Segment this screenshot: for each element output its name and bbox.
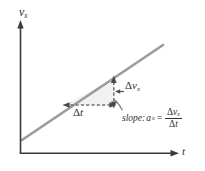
delta-t-left-arrowhead <box>63 102 70 108</box>
slope-fraction: Δvx Δt <box>165 108 182 130</box>
slope-fraction-numerator: Δvx <box>165 108 182 118</box>
delta-v-pointer-arrowhead <box>115 89 120 93</box>
delta-v-label: Δvx <box>125 80 140 92</box>
numerator-subscript: x <box>177 111 180 117</box>
delta-v-subscript: x <box>137 85 140 92</box>
x-axis-label-symbol: t <box>182 145 185 157</box>
slope-fraction-denominator: Δt <box>167 119 180 129</box>
velocity-time-graph-figure: vx t Δt Δvx slope: ax = Δvx Δt <box>0 0 205 171</box>
y-axis-label-subscript: x <box>24 11 27 20</box>
x-axis-label: t <box>182 146 185 157</box>
y-axis-arrowhead <box>17 20 23 29</box>
delta-t-symbol: t <box>80 106 83 118</box>
slope-word-label: slope: <box>122 114 145 124</box>
figure-canvas <box>0 0 205 171</box>
slope-expression: slope: ax = Δvx Δt <box>122 108 182 130</box>
acceleration-symbol: a <box>146 114 151 124</box>
denominator-symbol: t <box>175 119 178 129</box>
equals-sign: = <box>157 114 162 124</box>
y-axis-label: vx <box>19 6 28 19</box>
acceleration-subscript: x <box>152 116 155 122</box>
x-axis-arrowhead <box>171 150 180 156</box>
delta-t-label: Δt <box>73 107 83 118</box>
